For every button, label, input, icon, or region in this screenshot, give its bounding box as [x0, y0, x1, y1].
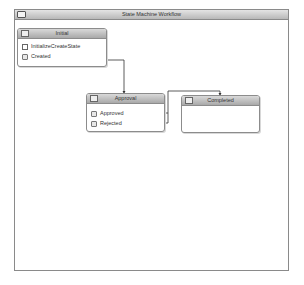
state-title: Initial: [18, 29, 106, 38]
state-header[interactable]: Approval: [87, 94, 164, 104]
state-title: Approval: [87, 94, 164, 103]
state-approval[interactable]: Approval Approved Rejected: [86, 93, 165, 132]
event-driven-icon: [91, 111, 97, 117]
state-initialization-icon: [22, 44, 28, 50]
state-header[interactable]: Completed: [182, 96, 259, 106]
state-completed[interactable]: Completed: [181, 95, 260, 133]
state-title: Completed: [182, 96, 259, 105]
activity-approved[interactable]: Approved: [91, 109, 124, 118]
activity-initialize-create-state[interactable]: InitializeCreateState: [22, 42, 80, 51]
event-driven-icon: [22, 54, 28, 60]
event-driven-icon: [91, 121, 97, 127]
activity-rejected[interactable]: Rejected: [91, 119, 122, 128]
state-initial[interactable]: Initial InitializeCreateState Created: [17, 28, 107, 67]
state-header[interactable]: Initial: [18, 29, 106, 39]
activity-created[interactable]: Created: [22, 52, 51, 61]
